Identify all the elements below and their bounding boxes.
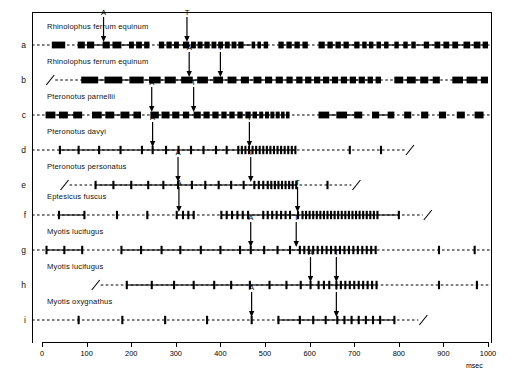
approach-marker-label-b: A	[187, 43, 193, 52]
terminal-marker-label-e: T	[248, 148, 253, 157]
axis-tick-label-0: 0	[40, 349, 44, 358]
trace-row-i: AT	[32, 280, 494, 332]
axis-tick-600	[310, 342, 311, 347]
row-label-e: e	[12, 180, 26, 190]
axis-tick-label-300: 300	[170, 349, 182, 358]
terminal-marker-label-f: T	[295, 178, 300, 187]
axis-tick-label-500: 500	[259, 349, 271, 358]
axis-tick-label-100: 100	[80, 349, 92, 358]
approach-marker-label-g: A	[248, 213, 254, 222]
terminal-marker-label-d: T	[247, 113, 252, 122]
row-label-g: g	[12, 245, 26, 255]
axis-tick-100	[87, 342, 88, 347]
row-label-d: d	[12, 145, 26, 155]
terminal-marker-label-a: T	[185, 8, 190, 17]
approach-marker-label-h: A	[308, 248, 314, 257]
row-label-f: f	[12, 210, 26, 220]
approach-marker-label-i: A	[249, 283, 255, 292]
axis-tick-700	[354, 342, 355, 347]
approach-marker-label-c: A	[149, 78, 155, 87]
x-axis: 01002003004005006007008009001000 msec	[32, 342, 490, 382]
axis-tick-800	[399, 342, 400, 347]
axis-tick-label-200: 200	[125, 349, 137, 358]
axis-unit-label: msec	[466, 362, 483, 369]
terminal-marker-label-h: T	[334, 248, 339, 257]
approach-marker-label-d: A	[150, 113, 156, 122]
axis-tick-300	[176, 342, 177, 347]
terminal-marker-label-b: T	[218, 43, 223, 52]
axis-tick-label-900: 900	[437, 349, 449, 358]
terminal-marker-label-c: T	[191, 78, 196, 87]
axis-tick-0	[42, 342, 43, 347]
axis-tick-label-700: 700	[348, 349, 360, 358]
axis-tick-900	[443, 342, 444, 347]
row-label-b: b	[12, 75, 26, 85]
row-label-a: a	[12, 40, 26, 50]
axis-tick-200	[131, 342, 132, 347]
row-label-i: i	[12, 315, 26, 325]
axis-tick-label-600: 600	[303, 349, 315, 358]
approach-marker-label-f: A	[176, 178, 182, 187]
axis-tick-1000	[488, 342, 489, 347]
row-label-c: c	[12, 110, 26, 120]
axis-tick-500	[265, 342, 266, 347]
terminal-marker-label-g: T	[294, 213, 299, 222]
approach-marker-label-e: A	[175, 148, 181, 157]
row-label-h: h	[12, 280, 26, 290]
axis-tick-label-1000: 1000	[480, 349, 496, 358]
axis-tick-label-400: 400	[214, 349, 226, 358]
approach-marker-label-a: A	[101, 8, 107, 17]
axis-tick-400	[220, 342, 221, 347]
terminal-marker-label-i: T	[334, 283, 339, 292]
bat-echolocation-figure: aRhinolophus ferrum equinumATbRhinolophu…	[0, 0, 521, 383]
axis-tick-label-800: 800	[393, 349, 405, 358]
